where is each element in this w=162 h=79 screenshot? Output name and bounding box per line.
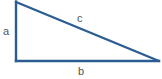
label-c: c — [77, 13, 83, 24]
label-a: a — [3, 26, 9, 37]
side-c-line — [16, 2, 159, 61]
triangle-diagram: a c b — [0, 0, 162, 79]
label-b: b — [78, 66, 84, 77]
